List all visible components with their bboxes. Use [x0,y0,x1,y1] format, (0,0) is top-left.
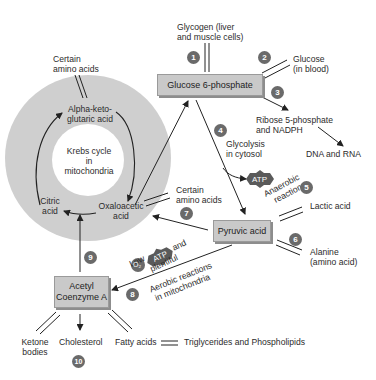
acetyl-line1: Acetyl [69,281,94,292]
o2-label: O₂ [133,260,141,270]
node-acetyl-coenzyme-a: Acetyl Coenzyme A [54,276,109,308]
atp-text-glycolysis: ATP [252,175,267,185]
triglycerides-label: Triglycerides and Phospholipids [184,337,305,347]
step-10-badge: 10 [72,355,85,368]
step-2-badge: 2 [258,51,271,64]
step-7-badge: 7 [180,207,193,220]
step-1-badge: 1 [187,51,200,64]
step-8-badge: 8 [126,288,139,301]
fatty-acids-label: Fatty acids [115,337,157,347]
oxaloacetic-label: Oxaloacetic acid [93,201,149,221]
node-pyruvic-acid: Pyruvic acid [213,220,271,242]
glycolysis-label: Glycolysis in cytosol [226,139,265,159]
glucose-blood-label: Glucose (in blood) [293,54,329,74]
alanine-label: Alanine (amino acid) [310,247,357,267]
citric-acid-label: Citric acid [35,196,65,216]
step-4-badge: 4 [214,124,227,137]
glycogen-label: Glycogen (liver and muscle cells) [177,22,243,42]
step-6-badge: 6 [289,233,302,246]
step-3-badge: 3 [271,86,284,99]
alpha-ketoglutaric-label: Alpha-keto- glutaric acid [58,104,122,124]
ketone-bodies-label: Ketone bodies [20,337,50,357]
certain-amino-acids-mid: Certain amino acids [176,185,222,205]
cholesterol-label: Cholesterol [59,337,102,347]
ribose-label: Ribose 5-phosphate and NADPH [256,115,333,135]
lactic-acid-label: Lactic acid [310,201,351,211]
step-5-badge: 5 [300,181,313,194]
acetyl-line2: Coenzyme A [56,292,107,303]
krebs-center-label: Krebs cycle in mitochondria [60,146,118,176]
node-glucose-6-phosphate: Glucose 6-phosphate [157,74,263,96]
certain-amino-acids-top: Certain amino acids [53,54,99,74]
step-9-badge: 9 [84,251,97,264]
dna-rna-label: DNA and RNA [306,149,361,159]
